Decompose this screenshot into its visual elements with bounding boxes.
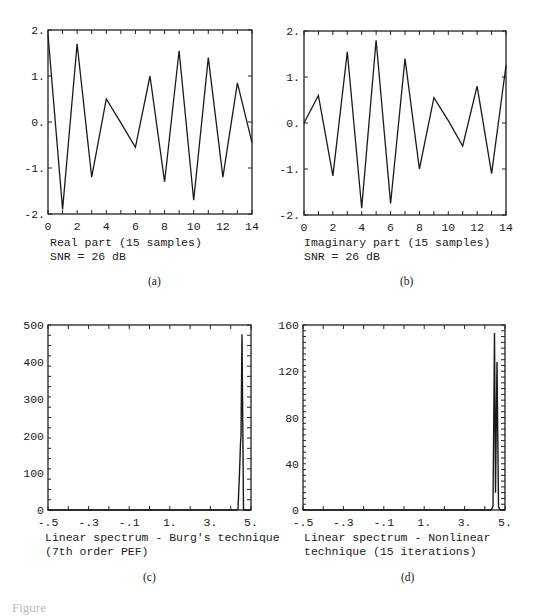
y-tick-label: 120 xyxy=(278,365,299,378)
x-tick-label: 14 xyxy=(499,221,513,234)
panel-b-caption-line2: SNR = 26 dB xyxy=(304,250,380,264)
y-tick-label: 400 xyxy=(23,356,44,369)
panel-b-caption-line1: Imaginary part (15 samples) xyxy=(304,236,490,250)
signal-line xyxy=(304,40,506,208)
y-tick-label: 200 xyxy=(23,430,44,443)
x-tick-label: 6 xyxy=(387,221,394,234)
panel-b: 2.1.0.-1.-2.02468101214 Imaginary part (… xyxy=(267,0,534,300)
x-tick-label: 2 xyxy=(74,220,81,233)
panel-c-caption-line1: Linear spectrum - Burg's technique xyxy=(45,531,280,545)
y-tick-label: 300 xyxy=(23,393,44,406)
panel-d-caption-line2: technique (15 iterations) xyxy=(304,545,477,559)
panel-a-caption-line2: SNR = 26 dB xyxy=(50,250,126,264)
x-tick-label: 8 xyxy=(161,220,168,233)
x-tick-label: 5. xyxy=(244,516,258,529)
x-tick-label: 12 xyxy=(216,220,230,233)
x-tick-label: 0 xyxy=(45,220,52,233)
y-tick-label: -1. xyxy=(279,163,300,176)
y-tick-label: -1. xyxy=(24,162,45,175)
y-tick-label: 0. xyxy=(286,117,300,130)
y-tick-label: 80 xyxy=(285,412,299,425)
x-tick-label: 10 xyxy=(441,221,455,234)
panel-d: 16012080400-.5-.3-.11.3.5. Linear spectr… xyxy=(267,300,534,600)
y-tick-label: 1. xyxy=(286,71,300,84)
x-tick-label: 2 xyxy=(329,221,336,234)
spectrum-line xyxy=(48,334,251,510)
y-tick-label: 1. xyxy=(31,70,45,83)
y-tick-label: 500 xyxy=(23,319,44,332)
x-tick-label: -.5 xyxy=(293,516,314,529)
panel-b-label: (b) xyxy=(400,275,413,287)
panel-d-caption-line1: Linear spectrum - Nonlinear xyxy=(304,531,490,545)
x-tick-label: 1. xyxy=(163,516,177,529)
figure-caption-cutoff: Figure xyxy=(12,600,46,616)
panel-c: 5004003002001000-.5-.3-.11.3.5. Linear s… xyxy=(0,300,267,600)
y-tick-label: -2. xyxy=(24,208,45,221)
y-tick-label: 2. xyxy=(286,25,300,38)
x-tick-label: 4 xyxy=(358,221,365,234)
x-tick-label: 8 xyxy=(416,221,423,234)
x-tick-label: -.3 xyxy=(333,516,354,529)
spectrum-line xyxy=(303,333,505,510)
x-tick-label: 12 xyxy=(470,221,484,234)
signal-line xyxy=(48,35,252,210)
x-tick-label: 3. xyxy=(458,516,472,529)
burg-spectrum-chart: 5004003002001000-.5-.3-.11.3.5. xyxy=(0,300,267,535)
panel-c-caption-line2: (7th order PEF) xyxy=(45,545,149,559)
x-tick-label: 6 xyxy=(132,220,139,233)
y-tick-label: -2. xyxy=(279,209,300,222)
y-tick-label: 40 xyxy=(285,458,299,471)
x-tick-label: 3. xyxy=(203,516,217,529)
x-tick-label: -.1 xyxy=(373,516,394,529)
x-tick-label: -.5 xyxy=(38,516,59,529)
panel-c-label: (c) xyxy=(143,571,156,583)
y-tick-label: 0. xyxy=(31,116,45,129)
panel-a: 2.1.0.-1.-2.02468101214 Real part (15 sa… xyxy=(0,0,267,300)
x-tick-label: -.1 xyxy=(119,516,140,529)
plot-frame xyxy=(48,325,251,510)
x-tick-label: 0 xyxy=(301,221,308,234)
y-tick-label: 2. xyxy=(31,24,45,37)
x-tick-label: -.3 xyxy=(78,516,99,529)
y-tick-label: 160 xyxy=(278,319,299,332)
panel-a-caption-line1: Real part (15 samples) xyxy=(50,236,202,250)
x-tick-label: 14 xyxy=(245,220,259,233)
x-tick-label: 5. xyxy=(498,516,512,529)
y-tick-label: 100 xyxy=(23,467,44,480)
nonlinear-spectrum-chart: 16012080400-.5-.3-.11.3.5. xyxy=(267,300,534,535)
x-tick-label: 4 xyxy=(103,220,110,233)
x-tick-label: 1. xyxy=(417,516,431,529)
imaginary-part-chart: 2.1.0.-1.-2.02468101214 xyxy=(267,0,534,240)
panel-a-label: (a) xyxy=(148,275,161,287)
x-tick-label: 10 xyxy=(187,220,201,233)
real-part-chart: 2.1.0.-1.-2.02468101214 xyxy=(0,0,267,240)
plot-frame xyxy=(303,325,505,510)
panel-d-label: (d) xyxy=(401,571,414,583)
